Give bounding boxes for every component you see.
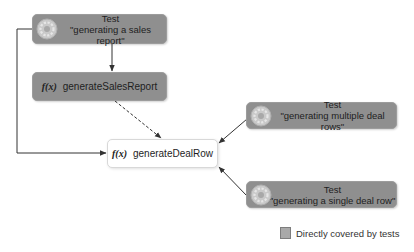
legend: Directly covered by tests [280,227,399,239]
test-node-multiple-deal-rows[interactable]: Test "generating multiple deal rows" [246,102,397,129]
test-node-title: Test [55,13,166,24]
test-node-title: Test [269,184,396,195]
edge-single-row-to-deal-row [219,167,247,196]
test-node-label: "generating a sales report" [55,24,166,46]
function-node-generate-sales-report[interactable]: f(x) generateSalesReport [32,72,167,101]
test-gear-icon [250,105,272,127]
legend-label: Directly covered by tests [296,228,399,239]
test-node-label: "generating a single deal row" [269,195,396,206]
function-name: generateSalesReport [63,81,158,92]
test-gear-icon [36,18,58,40]
function-name: generateDealRow [133,148,213,159]
test-node-single-deal-row[interactable]: Test "generating a single deal row" [246,181,397,208]
edge-multiple-rows-to-deal-row [219,119,247,143]
function-icon: f(x) [112,148,127,159]
test-node-sales-report[interactable]: Test "generating a sales report" [32,14,167,44]
function-node-generate-deal-row[interactable]: f(x) generateDealRow [107,139,218,168]
diagram-canvas: Test "generating a sales report" f(x) ge… [0,0,414,252]
test-gear-icon [250,184,272,206]
test-node-label: "generating multiple deal rows" [269,110,396,132]
legend-swatch [280,227,291,239]
edge-sales-report-to-deal-row [115,101,161,138]
test-node-title: Test [269,99,396,110]
function-icon: f(x) [42,81,57,92]
